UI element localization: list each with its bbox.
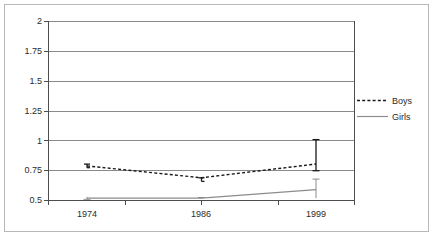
x-tick-label-1974: 1974 — [67, 209, 107, 219]
legend-sample-lines — [357, 101, 388, 117]
y-tick-label-0-5: 0.5 — [8, 195, 42, 205]
y-tick-label-1: 1 — [8, 136, 42, 146]
y-tick-label-2: 2 — [8, 16, 42, 26]
x-tick-label-1986: 1986 — [181, 209, 221, 219]
y-axis-ticks — [44, 22, 48, 201]
legend-label-girls: Girls — [392, 112, 411, 122]
x-tick-label-1999: 1999 — [296, 209, 336, 219]
y-tick-label-1-75: 1.75 — [8, 46, 42, 56]
y-tick-label-1-25: 1.25 — [8, 106, 42, 116]
legend-label-boys: Boys — [392, 96, 412, 106]
y-tick-label-0-75: 0.75 — [8, 165, 42, 175]
y-tick-label-1-5: 1.5 — [8, 76, 42, 86]
chart-plot — [0, 0, 437, 240]
